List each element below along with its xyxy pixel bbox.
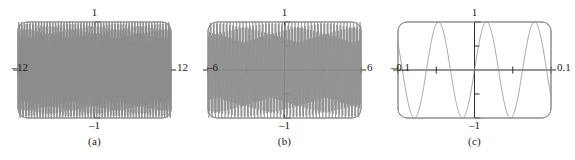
plot-panel-c: 1 ‒1 ‒0.1 0.1 (c) bbox=[380, 0, 569, 160]
panel-b-x-left-label: ‒6 bbox=[190, 62, 218, 73]
panel-b-y-bottom-label: ‒1 bbox=[190, 120, 379, 131]
panel-c-x-right-label: 0.1 bbox=[557, 62, 575, 73]
panel-b-y-top-label: 1 bbox=[190, 7, 379, 18]
plot-panel-a: 1 ‒1 ‒12 12 (a) bbox=[0, 0, 189, 160]
panel-a-y-bottom-label: ‒1 bbox=[0, 120, 189, 131]
panel-c-y-bottom-label: ‒1 bbox=[380, 120, 569, 131]
panel-a-caption: (a) bbox=[0, 135, 189, 147]
panel-c-x-left-label: ‒0.1 bbox=[376, 62, 410, 73]
panel-b-caption: (b) bbox=[190, 135, 379, 147]
panel-c-caption: (c) bbox=[380, 135, 569, 147]
plot-panel-b: 1 ‒1 ‒6 6 (b) bbox=[190, 0, 379, 160]
panel-a-x-left-label: ‒12 bbox=[0, 62, 28, 73]
panel-c-y-top-label: 1 bbox=[380, 7, 569, 18]
panel-a-y-top-label: 1 bbox=[0, 7, 189, 18]
